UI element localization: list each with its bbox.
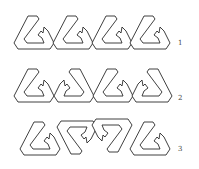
row-label-1: 1 [178, 39, 182, 47]
shape-3-2-flipped [57, 116, 97, 158]
shape-3-1 [20, 118, 60, 160]
shape-1-2 [53, 12, 93, 54]
shape-2-2-mirrored [54, 65, 94, 107]
shape-2-3 [93, 65, 133, 107]
shape-1-1 [14, 12, 54, 54]
shape-2-4-mirrored [132, 65, 172, 107]
row-2: 2 [0, 65, 199, 111]
row-label-2: 2 [178, 94, 182, 102]
row-1: 1 [0, 12, 199, 58]
shape-1-4 [130, 12, 170, 54]
shape-3-3-rotated [92, 114, 132, 156]
row-3: 3 [0, 116, 199, 162]
shape-2-1 [14, 65, 54, 107]
shape-3-4 [130, 118, 170, 160]
shape-1-3 [92, 12, 132, 54]
row-label-3: 3 [178, 145, 182, 153]
